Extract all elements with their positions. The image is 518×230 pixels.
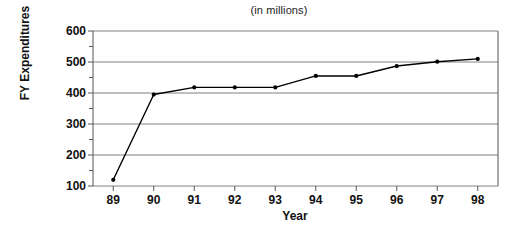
x-tick-label: 97 — [422, 194, 452, 206]
gridlines — [93, 31, 498, 186]
data-point — [273, 85, 277, 89]
x-tick-label: 96 — [382, 194, 412, 206]
data-point — [476, 57, 480, 61]
x-tick-label: 91 — [179, 194, 209, 206]
data-point — [152, 92, 156, 96]
y-tick-label: 400 — [50, 87, 86, 99]
data-point — [192, 85, 196, 89]
y-tick-label: 300 — [50, 118, 86, 130]
line-chart: (in millions) FY Expenditures Year 10020… — [0, 0, 518, 230]
y-axis-minor-ticks — [89, 47, 93, 171]
x-tick-label: 89 — [98, 194, 128, 206]
y-tick-label: 100 — [50, 180, 86, 192]
x-tick-label: 92 — [220, 194, 250, 206]
x-tick-label: 95 — [341, 194, 371, 206]
y-tick-label: 600 — [50, 25, 86, 37]
data-point — [111, 178, 115, 182]
data-series-markers — [111, 57, 480, 182]
data-point — [354, 74, 358, 78]
data-series-line — [113, 59, 478, 180]
x-tick-label: 94 — [301, 194, 331, 206]
data-point — [395, 64, 399, 68]
x-tick-label: 98 — [463, 194, 493, 206]
data-point — [233, 85, 237, 89]
y-tick-label: 500 — [50, 56, 86, 68]
data-point — [314, 74, 318, 78]
x-tick-label: 90 — [139, 194, 169, 206]
x-axis-ticks — [113, 186, 478, 191]
y-tick-label: 200 — [50, 149, 86, 161]
data-point — [435, 60, 439, 64]
plot-frame — [93, 31, 498, 186]
x-tick-label: 93 — [260, 194, 290, 206]
